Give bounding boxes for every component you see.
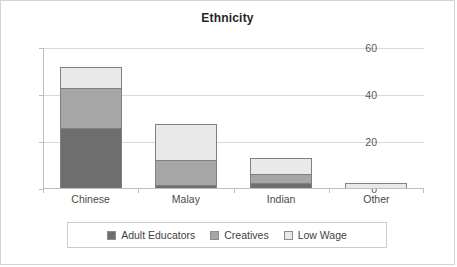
x-tick-mark <box>423 189 424 193</box>
bar-segment[interactable] <box>250 158 312 173</box>
legend-label: Low Wage <box>298 229 347 241</box>
bar-segment[interactable] <box>155 160 217 186</box>
x-category-label: Malay <box>172 193 200 205</box>
bar-segment[interactable] <box>60 67 122 88</box>
x-axis-line <box>43 188 424 189</box>
legend-swatch-icon <box>284 231 293 240</box>
chart-title: Ethnicity <box>1 11 454 25</box>
y-tick-label: 60 <box>347 42 377 54</box>
x-tick-mark <box>329 189 330 193</box>
x-category-label: Indian <box>267 193 296 205</box>
x-tick-mark <box>234 189 235 193</box>
bar-stack[interactable] <box>250 158 312 189</box>
plot-area: 0204060 <box>43 48 424 189</box>
bar-stack[interactable] <box>60 67 122 189</box>
y-tick-label: 40 <box>347 89 377 101</box>
bar-stack[interactable] <box>155 124 217 189</box>
legend-swatch-icon <box>107 231 116 240</box>
bar-segment[interactable] <box>155 124 217 159</box>
x-tick-mark <box>43 189 44 193</box>
y-axis-line <box>43 48 44 189</box>
legend-label: Adult Educators <box>121 229 195 241</box>
legend-label: Creatives <box>224 229 268 241</box>
x-tick-mark <box>138 189 139 193</box>
y-tick-label: 20 <box>347 136 377 148</box>
legend-item[interactable]: Creatives <box>210 229 268 241</box>
legend-swatch-icon <box>210 231 219 240</box>
legend-item[interactable]: Low Wage <box>284 229 347 241</box>
bar-segment[interactable] <box>60 88 122 128</box>
legend-item[interactable]: Adult Educators <box>107 229 195 241</box>
x-category-label: Other <box>363 193 389 205</box>
bar-segment[interactable] <box>60 128 122 189</box>
chart-legend: Adult EducatorsCreativesLow Wage <box>67 222 387 248</box>
bar-segment[interactable] <box>250 174 312 183</box>
x-category-label: Chinese <box>71 193 110 205</box>
chart-container: Ethnicity 0204060 ChineseMalayIndianOthe… <box>0 0 455 265</box>
